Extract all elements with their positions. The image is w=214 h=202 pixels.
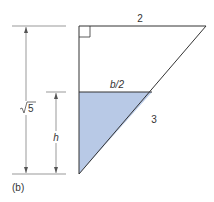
half-base-label: b/2 bbox=[110, 79, 124, 90]
hypotenuse-label: 3 bbox=[151, 114, 157, 125]
height-label: h bbox=[53, 132, 59, 143]
panel-label: (b) bbox=[12, 182, 24, 193]
total-height-label: 5 bbox=[18, 101, 36, 115]
svg-text:5: 5 bbox=[28, 103, 34, 114]
triangle-diagram: 2 3 b/2 h 5 (b) bbox=[0, 0, 214, 202]
top-label: 2 bbox=[137, 13, 143, 24]
right-angle-marker bbox=[79, 26, 90, 37]
